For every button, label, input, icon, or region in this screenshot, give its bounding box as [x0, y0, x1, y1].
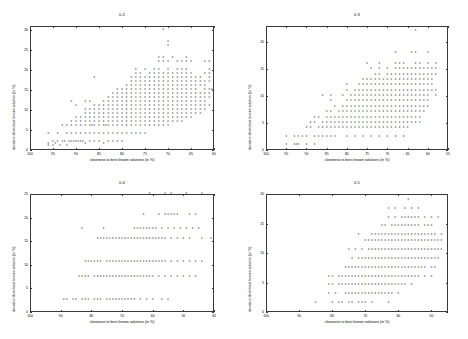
data-point: x [407, 105, 409, 108]
data-point: x [427, 73, 429, 76]
data-point: x [153, 116, 155, 119]
data-point: x [133, 228, 135, 231]
data-point: x [401, 225, 403, 228]
data-point: x [118, 299, 120, 302]
data-point: x [192, 228, 194, 231]
data-point: x [98, 132, 100, 135]
data-point: x [345, 266, 347, 269]
data-point: x [140, 108, 142, 111]
data-point: x [368, 275, 370, 278]
data-point: x [107, 124, 109, 127]
data-point: x [378, 135, 380, 138]
x-tickmark-top [408, 26, 409, 28]
data-point: x [395, 105, 397, 108]
data-point: x [190, 116, 192, 119]
data-point: x [427, 240, 429, 243]
data-point: x [195, 76, 197, 79]
data-point: x [421, 249, 423, 252]
data-point: x [318, 116, 320, 119]
data-point: x [384, 257, 386, 260]
data-point: x [199, 112, 201, 115]
data-point: x [318, 135, 320, 138]
data-point: x [354, 116, 356, 119]
y-tick-label: 15 [18, 88, 28, 92]
data-point: x [411, 89, 413, 92]
data-point: x [181, 80, 183, 83]
data-point: x [401, 266, 403, 269]
data-point: x [378, 95, 380, 98]
data-point: x [314, 121, 316, 124]
data-point: x [371, 249, 373, 252]
x-tick-label: 40 [212, 314, 216, 318]
data-point: x [298, 135, 300, 138]
data-point: x [140, 100, 142, 103]
data-point: x [368, 266, 370, 269]
data-point: x [167, 96, 169, 99]
data-point: x [135, 68, 137, 71]
data-point: x [176, 261, 178, 264]
data-point: x [395, 121, 397, 124]
data-point: x [167, 92, 169, 95]
data-point: x [388, 207, 390, 210]
data-point: x [381, 240, 383, 243]
data-point: x [403, 78, 405, 81]
x-tickmark [145, 148, 146, 150]
y-tickmark-right [446, 312, 448, 313]
x-tickmark [299, 310, 300, 312]
data-point: x [130, 92, 132, 95]
data-point: x [423, 95, 425, 98]
data-point: x [190, 108, 192, 111]
data-point: x [411, 240, 413, 243]
data-point: x [164, 192, 166, 195]
data-point: x [137, 237, 139, 240]
data-point: x [414, 266, 416, 269]
data-point: x [144, 108, 146, 111]
data-point: x [331, 302, 333, 305]
x-tickmark [428, 148, 429, 150]
data-point: x [98, 112, 100, 115]
data-point: x [395, 84, 397, 87]
panel-title-0: 0.2 [30, 12, 214, 17]
data-point: x [164, 214, 166, 217]
data-point: x [172, 92, 174, 95]
data-point: x [341, 284, 343, 287]
data-point: x [302, 135, 304, 138]
data-point: x [144, 84, 146, 87]
data-point: x [404, 207, 406, 210]
y-tickmark-right [446, 224, 448, 225]
data-point: x [149, 237, 151, 240]
data-point: x [330, 111, 332, 114]
data-point: x [328, 275, 330, 278]
data-point: x [48, 142, 50, 145]
data-point: x [374, 240, 376, 243]
data-point: x [391, 249, 393, 252]
data-point: x [399, 127, 401, 130]
data-point: x [163, 84, 165, 87]
data-point: x [394, 234, 396, 237]
data-point: x [183, 275, 185, 278]
data-point: x [172, 72, 174, 75]
y-tick-label: 15 [254, 222, 264, 226]
data-point: x [94, 76, 96, 79]
y-tick-label: 25 [18, 48, 28, 52]
data-point: x [75, 116, 77, 119]
data-point: x [362, 121, 364, 124]
data-point: x [374, 84, 376, 87]
x-tickmark-top [99, 26, 100, 28]
data-point: x [84, 116, 86, 119]
x-tickmark [183, 310, 184, 312]
data-point: x [75, 299, 77, 302]
data-point: x [370, 100, 372, 103]
data-point: x [404, 257, 406, 260]
data-point: x [172, 96, 174, 99]
data-point: x [391, 234, 393, 237]
data-point: x [403, 89, 405, 92]
data-point: x [322, 121, 324, 124]
data-point: x [424, 275, 426, 278]
data-point: x [395, 62, 397, 65]
data-point: x [408, 198, 410, 201]
data-point: x [388, 234, 390, 237]
data-point: x [401, 240, 403, 243]
panel-title-3: 0.5 [266, 180, 448, 185]
data-point: x [391, 266, 393, 269]
